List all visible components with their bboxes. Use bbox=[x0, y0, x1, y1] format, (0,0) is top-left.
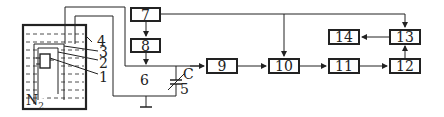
nitrogen-subscript: 2 bbox=[38, 101, 44, 111]
block-12: 12 bbox=[389, 58, 421, 74]
sample bbox=[40, 54, 50, 68]
block-11: 11 bbox=[328, 58, 360, 74]
block-8: 8 bbox=[130, 38, 161, 53]
block-9: 9 bbox=[206, 58, 238, 74]
block-10: 10 bbox=[268, 58, 300, 74]
node-6-label: 6 bbox=[140, 73, 149, 87]
callout-1: 1 bbox=[99, 70, 108, 84]
block-7: 7 bbox=[130, 7, 161, 22]
nitrogen-label: N2 bbox=[26, 93, 44, 111]
block-13: 13 bbox=[389, 29, 421, 45]
block-14: 14 bbox=[328, 29, 360, 45]
node-5-label: 5 bbox=[180, 82, 189, 96]
callout-2: 2 bbox=[99, 56, 108, 70]
nitrogen-symbol: N bbox=[26, 92, 38, 108]
capacitor-label: C bbox=[183, 67, 194, 81]
